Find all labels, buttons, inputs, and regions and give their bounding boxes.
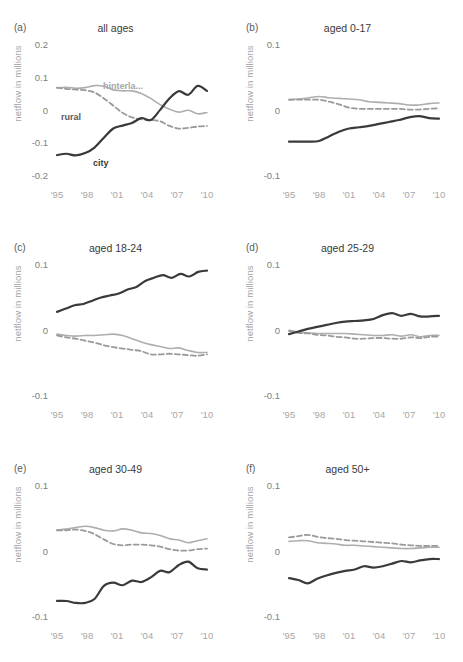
- series-label-rural: rural: [61, 112, 81, 122]
- chart-panel-d: (d)aged 25-29netflow in millions0.10-0.1…: [232, 220, 463, 440]
- plot-area-a: [0, 0, 231, 220]
- chart-panel-b: (b)aged 0-17netflow in millions0.10-0.1'…: [232, 0, 463, 220]
- plot-area-f: [232, 441, 463, 661]
- plot-area-e: [0, 441, 231, 661]
- chart-panel-c: (c)aged 18-24netflow in millions0.10-0.1…: [0, 220, 231, 440]
- figure-caption: [26, 652, 446, 662]
- plot-area-c: [0, 220, 231, 440]
- series-line-rural: [57, 530, 207, 551]
- chart-panel-e: (e)aged 30-49netflow in millions0.10-0.1…: [0, 441, 231, 661]
- series-line-hinterland: [289, 96, 439, 105]
- series-label-city: city: [93, 158, 109, 168]
- series-line-city: [57, 562, 207, 604]
- series-line-city: [289, 313, 439, 334]
- series-line-city: [289, 116, 439, 142]
- plot-area-d: [232, 220, 463, 440]
- figure-netflow-by-age: (a)all agesnetflow in millions0.20.10-0.…: [0, 0, 463, 662]
- chart-panel-a: (a)all agesnetflow in millions0.20.10-0.…: [0, 0, 231, 220]
- series-line-hinterland: [289, 330, 439, 337]
- series-line-hinterland: [57, 526, 207, 542]
- series-line-rural: [289, 535, 439, 546]
- series-line-city: [289, 559, 439, 583]
- plot-area-b: [232, 0, 463, 220]
- chart-panel-f: (f)aged 50+netflow in millions0.10-0.1'9…: [232, 441, 463, 661]
- series-label-hinterland: hinterla...: [103, 81, 143, 91]
- series-line-city: [57, 271, 207, 312]
